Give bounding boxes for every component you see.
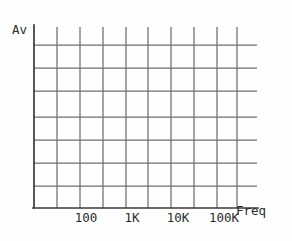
horizontal-gridlines	[34, 45, 257, 186]
frequency-response-graph: Av 100 1K 10K 100K Freq	[0, 0, 292, 241]
y-axis-title: Av	[12, 24, 27, 37]
x-tick-label-100: 100	[75, 212, 98, 225]
x-tick-label-100k: 100K	[209, 212, 239, 225]
x-tick-label-1k: 1K	[124, 212, 139, 225]
x-axis-title: Freq	[236, 205, 266, 218]
x-tick-label-10k: 10K	[167, 212, 190, 225]
